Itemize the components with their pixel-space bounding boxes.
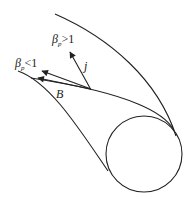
field-line xyxy=(31,78,174,130)
field-label: B xyxy=(56,87,64,101)
beta-high-label: βp>1 xyxy=(51,32,74,48)
current-label: j xyxy=(82,59,88,73)
lower-boundary-curve xyxy=(18,71,108,171)
sphere xyxy=(106,116,182,192)
magnetosphere-diagram: βp>1 βp<1 j B xyxy=(0,0,193,208)
beta-low-label: βp<1 xyxy=(14,56,37,72)
